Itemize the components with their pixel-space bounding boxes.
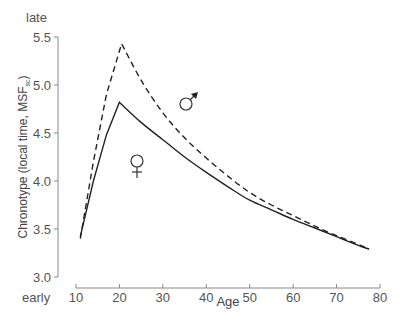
y-bottom-annotation: early xyxy=(22,290,51,305)
y-tick-label: 4.5 xyxy=(33,126,51,141)
y-tick-label: 5.0 xyxy=(33,78,51,93)
x-tick-label: 10 xyxy=(69,290,83,305)
x-tick-label: 70 xyxy=(329,290,343,305)
y-tick-label: 3.0 xyxy=(33,270,51,285)
x-tick-label: 80 xyxy=(373,290,387,305)
y-axis-title: Chronotype (local time, MSFsc) xyxy=(16,75,31,238)
female-symbol-icon xyxy=(131,155,143,178)
x-tick-label: 60 xyxy=(286,290,300,305)
y-top-annotation: late xyxy=(26,10,47,25)
x-tick-label: 40 xyxy=(199,290,213,305)
x-axis-title: Age xyxy=(216,294,239,309)
x-tick-label: 50 xyxy=(242,290,256,305)
female-series-line xyxy=(80,102,369,249)
male-symbol-icon xyxy=(180,92,198,110)
y-tick-label: 3.5 xyxy=(33,222,51,237)
x-tick-label: 30 xyxy=(156,290,170,305)
male-series-line xyxy=(80,44,369,250)
y-tick-label: 5.5 xyxy=(33,30,51,45)
y-tick-label: 4.0 xyxy=(33,174,51,189)
x-tick-label: 20 xyxy=(112,290,126,305)
y-axis-ticks: 3.03.54.04.55.05.5 xyxy=(33,30,58,285)
chronotype-age-chart: 3.03.54.04.55.05.5 1020304050607080 late… xyxy=(0,0,403,325)
